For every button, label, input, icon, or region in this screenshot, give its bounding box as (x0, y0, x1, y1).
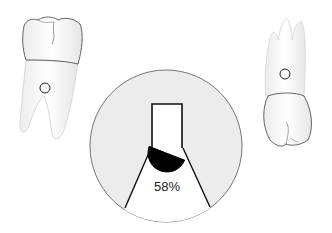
dental-diagram: 58% (0, 0, 332, 233)
magnifier-callout: 58% (90, 70, 242, 230)
left-tooth-icon (20, 17, 82, 139)
percentage-label: 58% (154, 179, 180, 194)
right-tooth-icon (264, 18, 312, 146)
